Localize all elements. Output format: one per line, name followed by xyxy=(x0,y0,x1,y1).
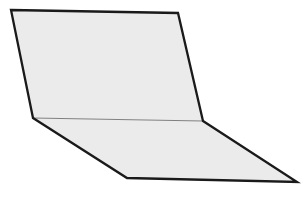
upper-half-plane-face xyxy=(11,10,203,121)
figure-canvas xyxy=(0,0,301,201)
lower-half-plane-face xyxy=(33,118,297,182)
folded-sheet-diagram xyxy=(0,0,301,201)
